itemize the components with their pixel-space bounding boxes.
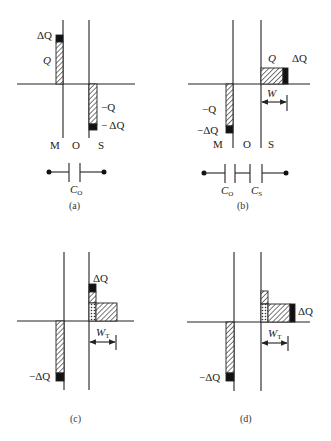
mos-charge-diagram: ΔQ Q −Q − ΔQ M O S CO (a) Q ΔQ −Q −ΔQ — [0, 0, 331, 441]
inversion-q-block — [89, 292, 96, 303]
mobile-charge-block — [89, 303, 96, 321]
neg-q-label: −Q — [202, 103, 216, 115]
wt-label: WT — [268, 327, 282, 341]
delta-q-label: ΔQ — [37, 29, 52, 41]
q-block — [56, 42, 63, 84]
capacitor-circuit-a — [47, 163, 107, 182]
capacitor-co-label: CO — [70, 183, 82, 197]
depletion-q-block — [96, 303, 117, 321]
neg-delta-q-label: −ΔQ — [197, 124, 218, 136]
neg-delta-q-block — [89, 124, 97, 130]
caption-d: (d) — [240, 413, 252, 425]
neg-delta-q-block — [56, 373, 64, 381]
capacitor-cs-label: CS — [251, 184, 262, 198]
caption-a: (a) — [69, 200, 80, 212]
capacitor-co-label: CO — [221, 184, 233, 198]
delta-q-block — [290, 304, 295, 322]
region-o-label: O — [243, 138, 251, 150]
delta-q-label: ΔQ — [292, 52, 307, 64]
neg-delta-q-block — [226, 126, 233, 133]
panel-c: ΔQ −ΔQ WT (c) — [17, 252, 134, 425]
panel-d: ΔQ −ΔQ WT (d) — [187, 252, 313, 425]
mobile-charge-block — [261, 304, 268, 322]
region-s-label: S — [268, 138, 274, 150]
neg-q-block — [89, 84, 97, 124]
region-s-label: S — [98, 139, 104, 151]
panel-b: Q ΔQ −Q −ΔQ W M O S CO CS (b) — [188, 20, 310, 212]
delta-q-block — [283, 68, 288, 84]
neg-delta-q-label: − ΔQ — [101, 119, 124, 131]
panel-a: ΔQ Q −Q − ΔQ M O S CO (a) — [17, 20, 135, 212]
neg-q-label: −Q — [101, 101, 115, 113]
neg-delta-q-block — [226, 373, 234, 381]
w-label: W — [267, 87, 277, 99]
neg-q-block — [226, 84, 233, 126]
delta-q-block — [89, 284, 96, 292]
depletion-q-block — [268, 304, 290, 322]
neg-q-block — [56, 321, 64, 373]
delta-q-label: ΔQ — [93, 272, 108, 284]
region-m-label: M — [50, 139, 60, 151]
neg-q-block — [226, 322, 234, 373]
delta-q-label: ΔQ — [298, 305, 313, 317]
wt-label: WT — [96, 326, 110, 340]
neg-delta-q-label: −ΔQ — [199, 371, 220, 383]
q-label: Q — [43, 54, 51, 66]
neg-delta-q-label: −ΔQ — [29, 370, 50, 382]
region-m-label: M — [213, 138, 223, 150]
caption-b: (b) — [237, 200, 249, 212]
capacitor-circuit-b — [202, 164, 289, 183]
caption-c: (c) — [70, 413, 81, 425]
q-depletion-block — [261, 68, 283, 84]
delta-q-block — [56, 35, 63, 42]
inversion-q-block — [261, 291, 268, 304]
region-o-label: O — [72, 139, 80, 151]
q-label: Q — [268, 52, 276, 64]
